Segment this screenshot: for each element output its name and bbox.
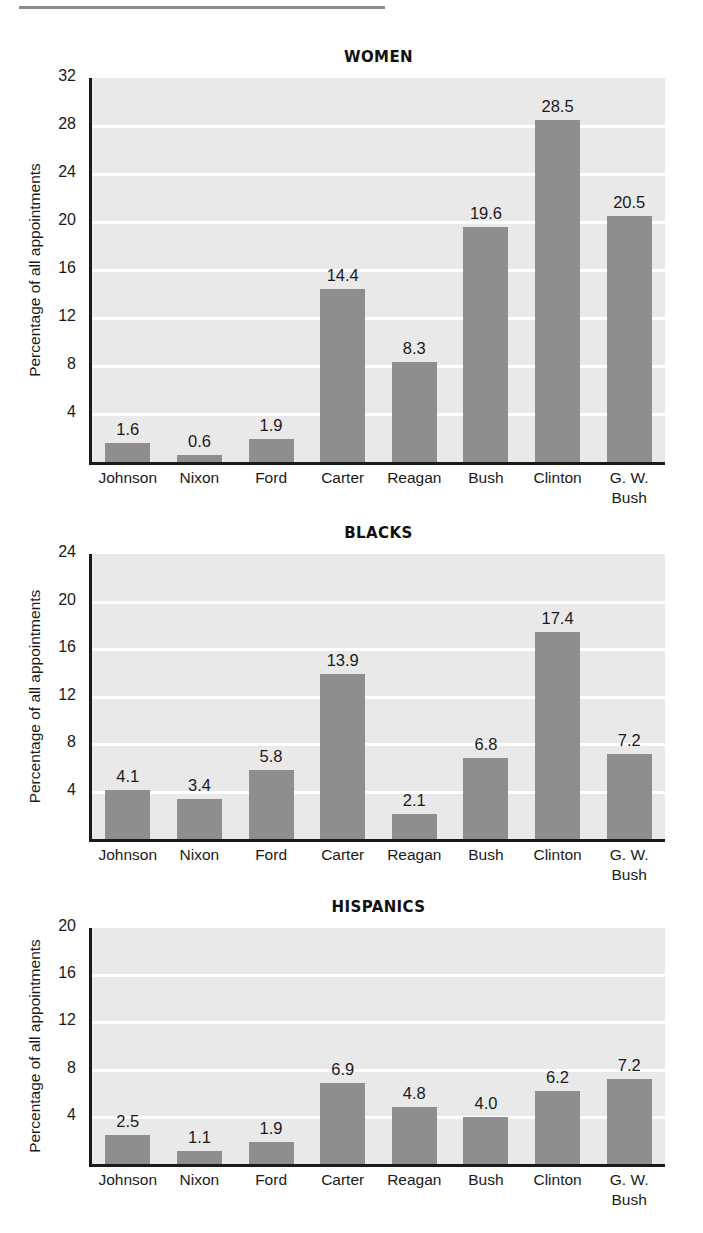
- bar: [320, 1083, 365, 1164]
- bar: [105, 790, 150, 839]
- bar-value-label: 7.2: [589, 731, 669, 750]
- bar-value-label: 1.6: [88, 420, 168, 439]
- y-axis-tick-label: 4: [36, 403, 76, 421]
- bar-value-label: 0.6: [159, 432, 239, 451]
- plot-area: 2.51.11.96.94.84.06.27.2: [92, 928, 665, 1164]
- y-axis-tick-label: 20: [36, 917, 76, 935]
- bar: [392, 362, 437, 462]
- y-axis-tick-label: 20: [36, 211, 76, 229]
- bar-value-label: 2.5: [88, 1112, 168, 1131]
- x-axis-line: [89, 462, 665, 465]
- x-axis-line: [89, 839, 665, 842]
- bar: [249, 770, 294, 839]
- y-axis-line: [89, 78, 92, 465]
- bar-value-label: 4.8: [374, 1084, 454, 1103]
- bar: [607, 1079, 652, 1164]
- y-axis-tick-label: 16: [36, 259, 76, 277]
- y-axis-tick-label: 16: [36, 964, 76, 982]
- bar-value-label: 8.3: [374, 339, 454, 358]
- bar: [392, 814, 437, 839]
- gridline: [92, 601, 665, 604]
- y-axis-tick-label: 32: [36, 67, 76, 85]
- bar: [320, 289, 365, 462]
- bar: [535, 120, 580, 462]
- x-axis-category-label: G. W.Bush: [579, 1170, 679, 1210]
- x-axis-category-label: G. W.Bush: [579, 468, 679, 508]
- bar: [463, 758, 508, 839]
- bar: [105, 1135, 150, 1165]
- y-axis-tick-label: 28: [36, 115, 76, 133]
- bar: [177, 1151, 222, 1164]
- bar: [463, 1117, 508, 1164]
- y-axis-tick-label: 12: [36, 686, 76, 704]
- bar-value-label: 4.0: [446, 1094, 526, 1113]
- bar: [320, 674, 365, 839]
- chart-title: BLACKS: [92, 524, 665, 542]
- bar-value-label: 3.4: [159, 776, 239, 795]
- x-axis-line: [89, 1164, 665, 1167]
- bar-value-label: 28.5: [518, 97, 598, 116]
- plot-area: 4.13.45.813.92.16.817.47.2: [92, 554, 665, 839]
- bar-value-label: 13.9: [303, 651, 383, 670]
- bar: [249, 1142, 294, 1164]
- bar: [607, 216, 652, 462]
- y-axis-line: [89, 928, 92, 1167]
- bar-value-label: 19.6: [446, 204, 526, 223]
- bar-value-label: 20.5: [589, 193, 669, 212]
- bar-value-label: 5.8: [231, 747, 311, 766]
- bar: [607, 754, 652, 840]
- bar: [105, 443, 150, 462]
- gridline: [92, 1021, 665, 1024]
- bar-value-label: 7.2: [589, 1056, 669, 1075]
- y-axis-tick-label: 8: [36, 733, 76, 751]
- bar-value-label: 17.4: [518, 609, 598, 628]
- bar: [177, 799, 222, 839]
- y-axis-tick-label: 20: [36, 591, 76, 609]
- bar-value-label: 14.4: [303, 266, 383, 285]
- chart-title: HISPANICS: [92, 898, 665, 916]
- y-axis-tick-label: 4: [36, 781, 76, 799]
- bar-value-label: 6.2: [518, 1068, 598, 1087]
- chart-title: WOMEN: [92, 48, 665, 66]
- bar-value-label: 1.1: [159, 1128, 239, 1147]
- y-axis-line: [89, 554, 92, 842]
- bar: [177, 455, 222, 462]
- bar-value-label: 1.9: [231, 1119, 311, 1138]
- y-axis-tick-label: 24: [36, 163, 76, 181]
- header-divider: [19, 6, 385, 9]
- bar-value-label: 6.8: [446, 735, 526, 754]
- plot-area: 1.60.61.914.48.319.628.520.5: [92, 78, 665, 462]
- bar-value-label: 2.1: [374, 791, 454, 810]
- bar-value-label: 4.1: [88, 767, 168, 786]
- bar: [249, 439, 294, 462]
- bar-value-label: 6.9: [303, 1060, 383, 1079]
- y-axis-tick-label: 24: [36, 543, 76, 561]
- bar-value-label: 1.9: [231, 416, 311, 435]
- y-axis-tick-label: 8: [36, 355, 76, 373]
- bar: [535, 1091, 580, 1164]
- y-axis-tick-label: 12: [36, 307, 76, 325]
- y-axis-tick-label: 8: [36, 1059, 76, 1077]
- bar: [392, 1107, 437, 1164]
- bar: [535, 632, 580, 839]
- y-axis-tick-label: 4: [36, 1106, 76, 1124]
- y-axis-tick-label: 16: [36, 638, 76, 656]
- bar: [463, 227, 508, 462]
- gridline: [92, 974, 665, 977]
- y-axis-tick-label: 12: [36, 1011, 76, 1029]
- x-axis-category-label: G. W.Bush: [579, 845, 679, 885]
